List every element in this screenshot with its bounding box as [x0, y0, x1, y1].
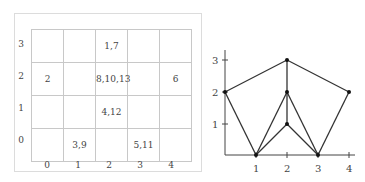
axes — [222, 50, 355, 158]
graph-plot: 1 2 3 4 1 2 3 — [0, 0, 365, 182]
x-tick-label: 4 — [346, 163, 352, 174]
y-tick-label: 1 — [212, 119, 218, 130]
y-tick-label: 2 — [212, 87, 218, 98]
graph-edges — [225, 60, 349, 155]
x-tick-label: 2 — [284, 163, 290, 174]
x-tick-label: 3 — [315, 163, 321, 174]
y-tick-label: 3 — [212, 55, 218, 66]
x-tick-label: 1 — [253, 163, 259, 174]
